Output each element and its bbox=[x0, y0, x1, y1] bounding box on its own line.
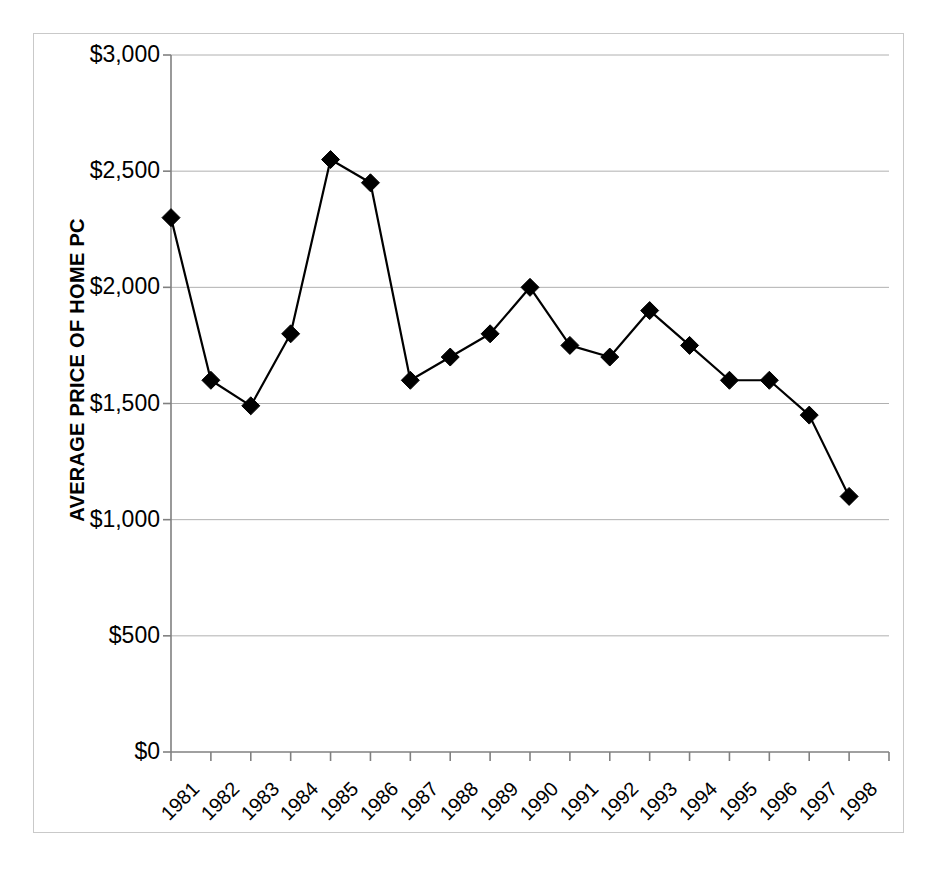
line-chart-plot bbox=[0, 0, 936, 875]
data-point-marker bbox=[282, 325, 300, 343]
data-point-marker bbox=[361, 174, 379, 192]
data-point-marker bbox=[162, 209, 180, 227]
chart-figure: AVERAGE PRICE OF HOME PC $0$500$1,000$1,… bbox=[0, 0, 936, 875]
data-point-marker bbox=[441, 348, 459, 366]
data-point-marker bbox=[840, 487, 858, 505]
data-point-marker bbox=[242, 397, 260, 415]
data-point-marker bbox=[322, 151, 340, 169]
data-point-marker bbox=[401, 371, 419, 389]
data-line-series bbox=[171, 160, 849, 497]
data-point-marker bbox=[561, 336, 579, 354]
data-point-marker bbox=[202, 371, 220, 389]
